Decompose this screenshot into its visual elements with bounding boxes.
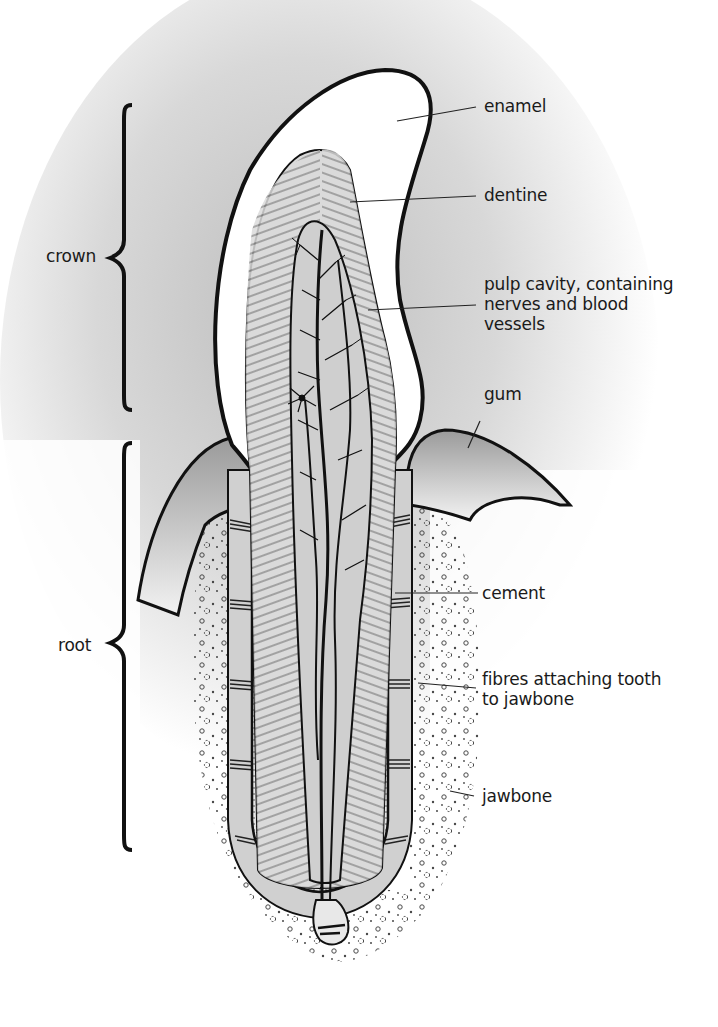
root-apex [313,900,348,944]
tooth-diagram: crown root enamel dentine pulp cavity, c… [0,0,718,1027]
enamel-label: enamel [484,96,546,116]
gum-label: gum [484,384,522,404]
dentine-label: dentine [484,185,547,205]
tooth-illustration [0,0,718,1027]
fibres-label: fibres attaching tooth to jawbone [482,669,661,709]
crown-label: crown [46,246,96,266]
cement-label: cement [482,583,545,603]
jawbone-label: jawbone [482,786,552,806]
root-label: root [58,635,91,655]
pulp-cavity-label: pulp cavity, containing nerves and blood… [484,274,673,334]
